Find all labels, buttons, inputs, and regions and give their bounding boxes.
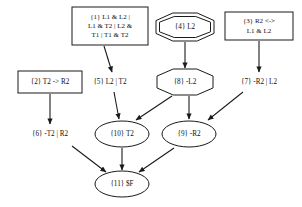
- node-n11[interactable]: {11} $F: [95, 171, 149, 197]
- edge-n9-to-n11: [139, 148, 174, 172]
- node-label-n9: {9} -R2: [177, 130, 200, 138]
- node-label-n11: {11} $F: [110, 180, 133, 188]
- node-n7[interactable]: {7} -R2 | L2: [241, 78, 277, 86]
- node-label-n8: {8} -L2: [174, 78, 197, 86]
- node-n1[interactable]: {1} L1 & L2 |L1 & T2 | L2 &T1 | T1 & T2: [72, 7, 148, 45]
- edge-n6-to-n11: [72, 146, 106, 172]
- node-n2[interactable]: {2} T2 -> R2: [18, 71, 82, 93]
- diagram-canvas: {1} L1 & L2 |L1 & T2 | L2 &T1 | T1 & T2{…: [0, 0, 302, 207]
- node-label-n7: {7} -R2 | L2: [241, 78, 277, 86]
- edge-n8-to-n10: [136, 96, 172, 120]
- edge-n7-to-n9: [208, 92, 243, 120]
- edges-layer: [50, 41, 259, 172]
- edge-n5-to-n10: [114, 92, 119, 119]
- node-n3[interactable]: {3} R2 <->L1 & L2: [225, 12, 293, 40]
- edge-n1-to-n5: [104, 46, 112, 72]
- node-label-n3: {3} R2 <->L1 & L2: [243, 17, 275, 34]
- node-label-n2: {2} T2 -> R2: [31, 78, 70, 86]
- node-label-n6: {6} -T2 | R2: [32, 130, 68, 138]
- graph-svg: {1} L1 & L2 |L1 & T2 | L2 &T1 | T1 & T2{…: [0, 0, 302, 207]
- node-n8[interactable]: {8} -L2: [157, 69, 213, 95]
- node-n10[interactable]: {10} T2: [95, 121, 149, 147]
- node-label-n1: {1} L1 & L2 |L1 & T2 | L2 &T1 | T1 & T2: [88, 12, 133, 38]
- node-n4[interactable]: {4} L2: [156, 13, 214, 41]
- node-label-n10: {10} T2: [110, 130, 134, 138]
- node-n9[interactable]: {9} -R2: [162, 121, 216, 147]
- node-n5[interactable]: {5} L2 | T2: [93, 78, 127, 86]
- node-label-n5: {5} L2 | T2: [93, 78, 127, 86]
- node-label-n4: {4} L2: [175, 23, 196, 31]
- node-n6[interactable]: {6} -T2 | R2: [32, 130, 68, 138]
- nodes-layer: {1} L1 & L2 |L1 & T2 | L2 &T1 | T1 & T2{…: [18, 7, 293, 197]
